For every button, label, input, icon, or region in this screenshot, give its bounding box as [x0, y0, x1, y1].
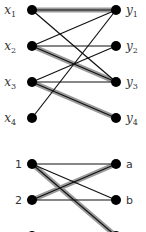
node-label-x1: x1 — [4, 3, 16, 19]
node-y1 — [111, 5, 121, 15]
node-label-x4: x4 — [4, 111, 16, 127]
node-y4 — [111, 113, 121, 123]
bipartite-matching-diagram: x1x2x3x4y1y2y3y4123abc — [0, 0, 146, 232]
node-x1 — [27, 5, 37, 15]
node-label-x3: x3 — [4, 75, 16, 91]
node-a — [111, 159, 121, 169]
node-label-2: 2 — [15, 194, 22, 207]
node-2 — [27, 195, 37, 205]
node-label-b: b — [126, 194, 133, 207]
node-label-y3: y3 — [125, 75, 138, 91]
node-label-c: c — [126, 230, 132, 232]
matching-highlights — [32, 10, 116, 232]
node-x4 — [27, 113, 37, 123]
node-label-3: 3 — [15, 230, 22, 232]
node-x3 — [27, 77, 37, 87]
node-label-x2: x2 — [4, 39, 16, 55]
edge-x2-y1 — [32, 10, 116, 46]
node-label-y1: y1 — [125, 3, 138, 19]
node-label-1: 1 — [15, 158, 22, 171]
node-x2 — [27, 41, 37, 51]
node-label-a: a — [126, 158, 133, 171]
node-b — [111, 195, 121, 205]
node-y3 — [111, 77, 121, 87]
node-y2 — [111, 41, 121, 51]
node-label-y4: y4 — [125, 111, 138, 127]
edge-x3-y4 — [32, 82, 116, 118]
node-label-y2: y2 — [125, 39, 138, 55]
node-3 — [27, 231, 37, 232]
node-1 — [27, 159, 37, 169]
